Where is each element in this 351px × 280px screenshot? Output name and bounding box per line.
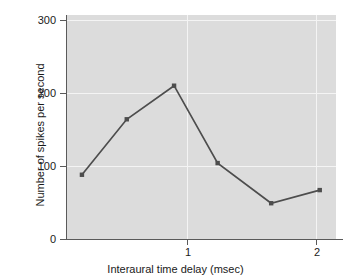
gridline-y-100	[67, 166, 336, 167]
plot-area	[67, 15, 336, 239]
gridline-y-200	[67, 93, 336, 94]
y-axis-line	[66, 15, 67, 240]
x-tick-1	[187, 240, 188, 245]
gridline-x-1	[187, 15, 188, 239]
x-axis-title: Interaural time delay (msec)	[0, 263, 351, 275]
gridline-y-300	[67, 20, 336, 21]
y-tick-100	[60, 166, 66, 167]
y-tick-0	[60, 239, 66, 240]
gridline-x-2	[316, 15, 317, 239]
y-tick-200	[60, 93, 66, 94]
y-axis-title: Number of spikes per second	[32, 23, 48, 247]
x-tick-2	[316, 240, 317, 245]
x-tick-label-2: 2	[307, 247, 327, 258]
y-tick-label-0: 0	[50, 234, 56, 245]
chart-figure: 300 200 100 0 1 2 Interaural time delay …	[0, 0, 351, 280]
x-tick-label-1: 1	[178, 247, 198, 258]
x-axis-line	[60, 239, 343, 240]
y-tick-300	[60, 20, 66, 21]
